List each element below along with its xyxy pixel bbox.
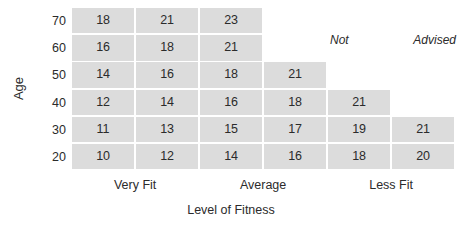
cell-age-40-col-2: 14	[136, 90, 198, 115]
y-axis-tick-40: 40	[36, 90, 66, 117]
not-advised-word-1: Not	[330, 33, 349, 47]
x-axis-category-average: Average	[200, 176, 326, 194]
table-row: 1214161821	[72, 90, 456, 117]
cell-age-20-col-5: 18	[328, 144, 390, 169]
cell-age-40-col-4: 18	[264, 90, 326, 115]
cell-age-30-col-4: 17	[264, 117, 326, 142]
y-axis-tick-70: 70	[36, 8, 66, 35]
cell-age-40-col-5: 21	[328, 90, 390, 115]
cell-age-50-col-1: 14	[72, 62, 134, 87]
cell-age-30-col-6: 21	[392, 117, 454, 142]
fitness-age-table-chart: Age 706050403020 18212316182114161821121…	[0, 0, 462, 225]
cell-age-40-col-3: 16	[200, 90, 262, 115]
cell-age-60-col-2: 18	[136, 35, 198, 60]
x-axis-title: Level of Fitness	[0, 203, 462, 217]
table-row: 111315171921	[72, 117, 456, 144]
cell-age-60-col-1: 16	[72, 35, 134, 60]
y-axis-tick-30: 30	[36, 117, 66, 144]
cell-age-30-col-5: 19	[328, 117, 390, 142]
cell-age-50-col-4: 21	[264, 62, 326, 87]
table-row: 101214161820	[72, 144, 456, 171]
cell-age-20-col-3: 14	[200, 144, 262, 169]
cell-age-20-col-1: 10	[72, 144, 134, 169]
y-axis-tick-60: 60	[36, 35, 66, 62]
cell-age-40-col-1: 12	[72, 90, 134, 115]
cell-age-50-col-2: 16	[136, 62, 198, 87]
table-row: 14161821	[72, 62, 456, 89]
cell-age-30-col-2: 13	[136, 117, 198, 142]
cell-age-20-col-2: 12	[136, 144, 198, 169]
y-axis-tick-labels: 706050403020	[36, 8, 66, 171]
cell-age-70-col-3: 23	[200, 8, 262, 33]
cell-age-60-col-3: 21	[200, 35, 262, 60]
y-axis-tick-50: 50	[36, 62, 66, 89]
y-axis-title: Age	[6, 58, 32, 118]
cell-age-50-col-3: 18	[200, 62, 262, 87]
cell-age-70-col-2: 21	[136, 8, 198, 33]
y-axis-title-label: Age	[11, 76, 26, 99]
not-advised-annotation: Not Advised	[330, 33, 456, 47]
y-axis-tick-20: 20	[36, 144, 66, 171]
x-axis-category-labels: Very FitAverageLess Fit	[72, 176, 456, 194]
cell-age-20-col-4: 16	[264, 144, 326, 169]
cell-age-20-col-6: 20	[392, 144, 454, 169]
cell-age-70-col-1: 18	[72, 8, 134, 33]
not-advised-word-2: Advised	[413, 33, 456, 47]
cell-age-30-col-1: 11	[72, 117, 134, 142]
table-row: 182123	[72, 8, 456, 35]
cell-age-30-col-3: 15	[200, 117, 262, 142]
x-axis-category-very-fit: Very Fit	[72, 176, 198, 194]
x-axis-category-less-fit: Less Fit	[328, 176, 454, 194]
